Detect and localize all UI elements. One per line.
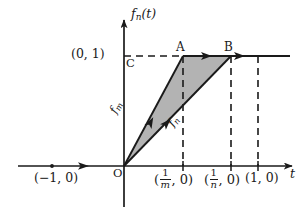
label-coordinate-inv-m: (1m, 0) [154,169,193,191]
x-axis-label: t [290,168,295,181]
label-coordinate-neg-one: (−1, 0) [34,172,78,185]
label-coordinate-one-zero: (1, 0) [245,172,279,185]
point-marker-neg-one [50,164,54,168]
inv-m-open-paren: ( [154,172,159,187]
y-axis-label: fn(t) [131,8,156,22]
point-label-o: O [113,168,122,180]
point-label-b: B [224,41,233,53]
y-axis-label-argument: (t) [141,6,156,21]
inv-n-open-paren: ( [204,172,209,187]
inv-m-close-paren: , 0) [172,172,194,187]
label-coordinate-inv-n: (1n, 0) [204,169,240,191]
label-coordinate-zero-one: (0, 1) [71,48,105,61]
point-label-a: A [176,41,185,53]
fraction-denominator: m [160,180,171,190]
fraction-one-over-n: 1n [210,168,218,190]
fraction-one-over-m: 1m [160,168,171,190]
fraction-numerator: 1 [160,168,171,178]
point-label-c: C [126,58,135,70]
figure-canvas: fn(t) t A B C O (0, 1) (−1, 0) (1, 0) (1… [0,0,306,215]
fraction-denominator: n [210,180,218,190]
inv-n-close-paren: , 0) [219,172,241,187]
fraction-numerator: 1 [210,168,218,178]
